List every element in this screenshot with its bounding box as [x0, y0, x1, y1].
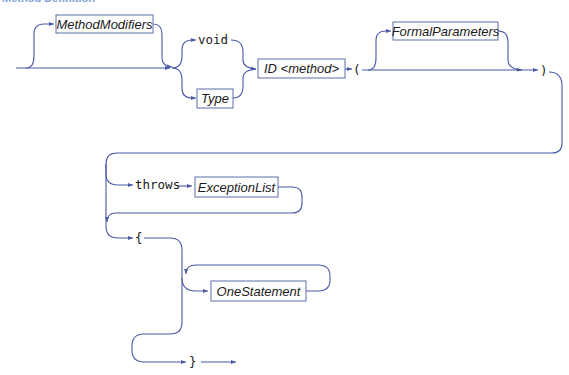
- close-paren-terminal: ): [540, 63, 548, 78]
- wrap-line: [106, 72, 562, 185]
- type-label: Type: [201, 91, 229, 106]
- open-paren-terminal: (: [353, 62, 361, 77]
- fork-void: [172, 40, 196, 68]
- brace-line: [132, 238, 186, 362]
- statement-branch-in: [182, 278, 208, 291]
- params-branch-out: [498, 31, 522, 70]
- void-terminal: void: [198, 32, 228, 47]
- diagram-title: Method Definition: [2, 0, 95, 4]
- method-modifiers-label: MethodModifiers: [56, 17, 153, 32]
- open-brace-terminal: {: [135, 230, 143, 245]
- params-branch-in: [368, 31, 391, 70]
- modifiers-branch-in: [26, 24, 54, 68]
- modifiers-branch-out: [153, 24, 172, 67]
- merge-void: [231, 40, 256, 69]
- formal-parameters-label: FormalParameters: [392, 24, 500, 39]
- throws-terminal: throws: [135, 177, 180, 192]
- bypass-throws: [106, 164, 133, 238]
- close-brace-terminal: }: [189, 354, 197, 369]
- exception-list-label: ExceptionList: [198, 180, 277, 195]
- one-statement-label: OneStatement: [217, 284, 302, 299]
- id-method-label: ID <method>: [264, 61, 340, 76]
- fork-type: [172, 68, 196, 98]
- merge-type: [233, 69, 256, 98]
- syntax-diagram: Method Definition MethodModifiers void T…: [0, 0, 569, 375]
